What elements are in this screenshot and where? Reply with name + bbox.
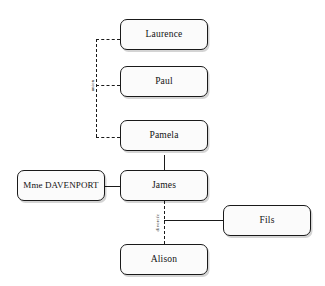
node-james-label: James (152, 181, 176, 191)
node-james[interactable]: James (120, 170, 208, 201)
node-alison-label: Alison (151, 255, 178, 265)
union-branch-to-pamela (96, 137, 120, 138)
edge-label-union: union (90, 71, 95, 101)
node-laurence[interactable]: Laurence (120, 19, 208, 50)
node-paul-label: Paul (155, 77, 173, 87)
node-fils[interactable]: Fils (223, 205, 311, 236)
union-bracket-vertical-line (96, 39, 97, 137)
connector-to-fils (164, 220, 223, 221)
node-pamela-label: Pamela (149, 131, 178, 141)
node-mme-davenport-label: Mme DAVENPORT (23, 181, 98, 190)
edge-label-divorcee: divorcée (155, 205, 160, 241)
divorce-vertical-line (164, 201, 165, 244)
union-branch-to-laurence (96, 39, 120, 40)
node-alison[interactable]: Alison (120, 244, 208, 275)
node-pamela[interactable]: Pamela (120, 120, 208, 151)
node-paul[interactable]: Paul (120, 66, 208, 97)
node-fils-label: Fils (259, 216, 274, 226)
node-laurence-label: Laurence (146, 30, 183, 40)
family-tree-diagram: union divorcée Laurence Paul Pamela Mme … (0, 0, 325, 286)
union-branch-to-paul (96, 85, 120, 86)
node-mme-davenport[interactable]: Mme DAVENPORT (17, 170, 105, 201)
